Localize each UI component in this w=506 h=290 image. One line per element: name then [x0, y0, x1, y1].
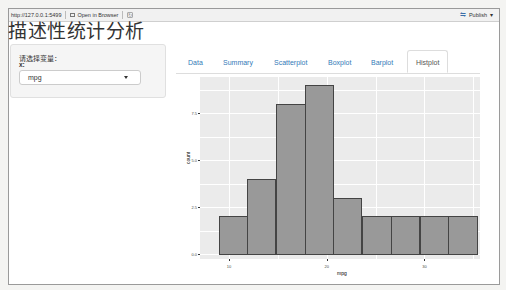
histogram-bar [247, 179, 276, 255]
publish-button[interactable]: ⇋ Publish ▾ [460, 11, 493, 18]
y-tick-mark [198, 207, 200, 208]
gridline-horizontal [200, 90, 480, 91]
publish-icon: ⇋ [460, 11, 466, 18]
y-tick-mark [198, 160, 200, 161]
histogram-bar [333, 198, 362, 255]
x-tick-label: 10 [221, 264, 237, 269]
x-tick-mark [424, 259, 425, 261]
variable-select[interactable]: mpg [19, 70, 141, 85]
histogram-bar [448, 216, 477, 255]
y-axis-label: count [185, 152, 191, 164]
gridline-horizontal [200, 160, 480, 161]
histogram-bar [305, 85, 334, 255]
publish-label: Publish [469, 12, 487, 18]
tab-boxplot[interactable]: Boxplot [328, 53, 351, 72]
tab-barplot[interactable]: Barplot [371, 53, 393, 72]
tab-histplot[interactable]: Histplot [407, 50, 448, 73]
x-tick-label: 20 [319, 264, 335, 269]
tab-summary[interactable]: Summary [223, 53, 253, 72]
sidebar-panel: 请选择变量： x: mpg [10, 44, 166, 98]
y-tick-label: 0.0 [181, 252, 197, 257]
y-tick-mark [198, 254, 200, 255]
select-value: mpg [28, 74, 42, 81]
histogram-bar [362, 216, 391, 255]
chevron-down-icon: ▾ [490, 12, 493, 18]
y-tick-label: 7.5 [181, 111, 197, 116]
x-label: x: [19, 61, 25, 68]
y-tick-mark [198, 113, 200, 114]
page-title: 描述性统计分析 [8, 16, 145, 43]
x-tick-mark [327, 259, 328, 261]
x-axis-label: mpg [337, 270, 347, 276]
tab-scatterplot[interactable]: Scatterplot [274, 53, 307, 72]
gridline-horizontal [200, 113, 480, 114]
gridline-horizontal [200, 137, 480, 138]
histogram-bar [391, 216, 420, 255]
tab-data[interactable]: Data [188, 53, 203, 72]
chevron-down-icon [124, 76, 128, 79]
x-tick-mark [229, 259, 230, 261]
tabset: Data Summary Scatterplot Boxplot Barplot… [176, 45, 480, 74]
y-tick-label: 2.5 [181, 205, 197, 210]
gridline-horizontal [200, 184, 480, 185]
histogram-bar [276, 104, 305, 255]
x-tick-label: 30 [416, 264, 432, 269]
histogram-bar [420, 216, 449, 255]
histogram-bar [219, 216, 248, 255]
variable-prompt-label: 请选择变量： [19, 53, 61, 63]
